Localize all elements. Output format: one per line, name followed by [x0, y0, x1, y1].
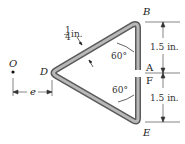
- label-e: e: [30, 86, 36, 97]
- lower-length-label: 1.5 in.: [150, 93, 179, 103]
- thin-walled-member-diagram: B A F E D O e 1 4 in. 1.5 in. 1.5 in. 60…: [0, 0, 185, 144]
- lower-angle-label: 60°: [112, 85, 128, 95]
- label-E: E: [142, 127, 151, 138]
- label-F: F: [146, 75, 153, 86]
- thickness-unit: in.: [71, 29, 83, 39]
- shear-center-point: [11, 70, 14, 73]
- label-D: D: [39, 66, 48, 77]
- upper-length-label: 1.5 in.: [150, 42, 179, 52]
- label-A: A: [145, 62, 154, 73]
- upper-angle-label: 60°: [111, 51, 127, 61]
- label-O: O: [9, 58, 17, 69]
- label-B: B: [142, 6, 150, 17]
